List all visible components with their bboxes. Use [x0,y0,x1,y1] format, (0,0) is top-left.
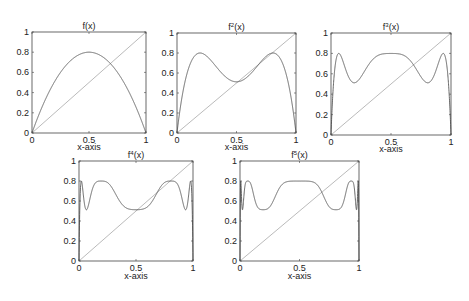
panel-f1: 00.20.40.60.8100.51x-axisf(x) [16,21,148,152]
panel-f3: 00.20.40.60.8100.51x-axisf3(x) [315,22,453,154]
y-tick-label: 0 [169,128,174,138]
x-axis-label: x-axis [288,271,312,281]
panel-f5: 00.20.40.60.8100.51x-axisf5(x) [224,150,361,281]
iterate-curve [32,52,146,133]
y-tick-label: 1 [323,28,328,38]
y-tick-label: 0 [71,256,76,266]
y-tick-label: 0.6 [315,69,328,79]
identity-line [79,161,193,261]
x-tick-label: 1 [293,135,298,145]
identity-line [240,161,359,261]
identity-line [331,33,451,135]
x-axis-label: x-axis [379,144,403,154]
y-tick-label: 0.4 [161,88,174,98]
panel-title: f2(x) [228,22,244,32]
x-tick-label: 1 [190,263,195,273]
y-tick-label: 0.4 [16,88,29,98]
y-tick-label: 0.4 [315,89,328,99]
panel-title: f3(x) [383,22,399,32]
y-tick-label: 0.2 [224,236,237,246]
panel-title: f(x) [83,21,96,31]
y-tick-label: 1 [169,28,174,38]
y-tick-label: 0.6 [16,67,29,77]
x-tick-label: 0 [237,263,242,273]
y-tick-label: 0.6 [161,68,174,78]
y-tick-label: 0.6 [224,196,237,206]
x-tick-label: 1 [448,137,453,147]
panel-f4: 00.20.40.60.8100.51x-axisf4(x) [63,150,195,281]
y-tick-label: 1 [232,156,237,166]
x-tick-label: 0 [174,135,179,145]
y-tick-label: 0.8 [315,48,328,58]
identity-line [32,32,146,133]
x-tick-label: 1 [356,263,361,273]
x-tick-label: 1 [143,135,148,145]
y-tick-label: 0 [323,130,328,140]
panel-f2: 00.20.40.60.8100.51x-axisf2(x) [161,22,298,152]
iterate-curve [177,53,296,133]
figure-canvas: 00.20.40.60.8100.51x-axisf(x) 00.20.40.6… [0,0,469,301]
panel-title: f5(x) [291,150,307,160]
y-tick-label: 0.4 [63,216,76,226]
y-tick-label: 0 [232,256,237,266]
x-axis-label: x-axis [225,142,249,152]
iterate-curve [331,53,451,135]
y-tick-label: 1 [71,156,76,166]
x-axis-label: x-axis [124,271,148,281]
y-tick-label: 0.2 [16,108,29,118]
y-tick-label: 0.2 [63,236,76,246]
x-tick-label: 0 [29,135,34,145]
identity-line [177,33,296,133]
y-tick-label: 0.2 [161,108,174,118]
iterate-curve [79,181,193,261]
y-tick-label: 0.8 [161,48,174,58]
y-tick-label: 0.8 [16,47,29,57]
x-tick-label: 0 [76,263,81,273]
y-tick-label: 0.4 [224,216,237,226]
y-tick-label: 0 [24,128,29,138]
y-tick-label: 0.8 [63,176,76,186]
x-axis-label: x-axis [77,142,101,152]
panel-title: f4(x) [128,150,144,160]
iterate-curve [240,181,359,261]
y-tick-label: 0.6 [63,196,76,206]
y-tick-label: 0.8 [224,176,237,186]
x-tick-label: 0 [328,137,333,147]
y-tick-label: 0.2 [315,110,328,120]
y-tick-label: 1 [24,27,29,37]
